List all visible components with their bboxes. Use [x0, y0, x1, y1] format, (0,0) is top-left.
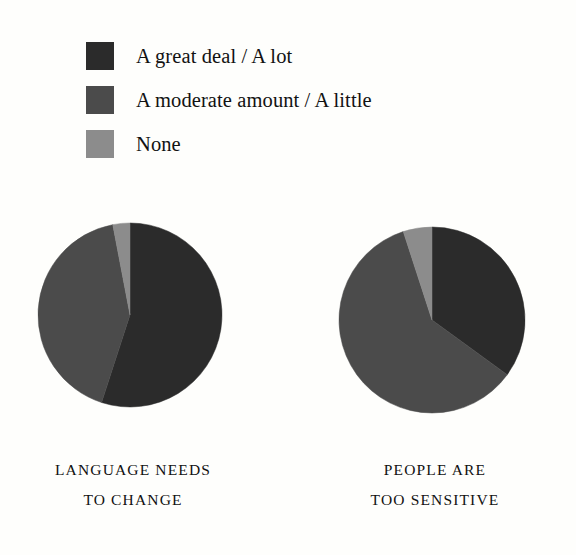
caption-line-2: TOO SENSITIVE [322, 485, 548, 515]
pie-chart-people-are-too-sensitive [336, 224, 528, 416]
pie-caption-people-are-too-sensitive: PEOPLE ARE TOO SENSITIVE [322, 455, 548, 515]
caption-line-2: TO CHANGE [20, 485, 246, 515]
pie-caption-language-needs-to-change: LANGUAGE NEEDS TO CHANGE [20, 455, 246, 515]
caption-line-1: LANGUAGE NEEDS [20, 455, 246, 485]
pie-chart-language-needs-to-change [34, 219, 226, 411]
caption-line-1: PEOPLE ARE [322, 455, 548, 485]
